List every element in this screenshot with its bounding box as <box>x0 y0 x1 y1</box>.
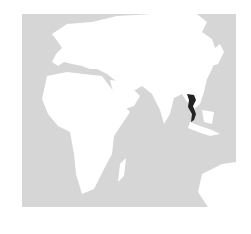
locator-map <box>22 14 236 207</box>
